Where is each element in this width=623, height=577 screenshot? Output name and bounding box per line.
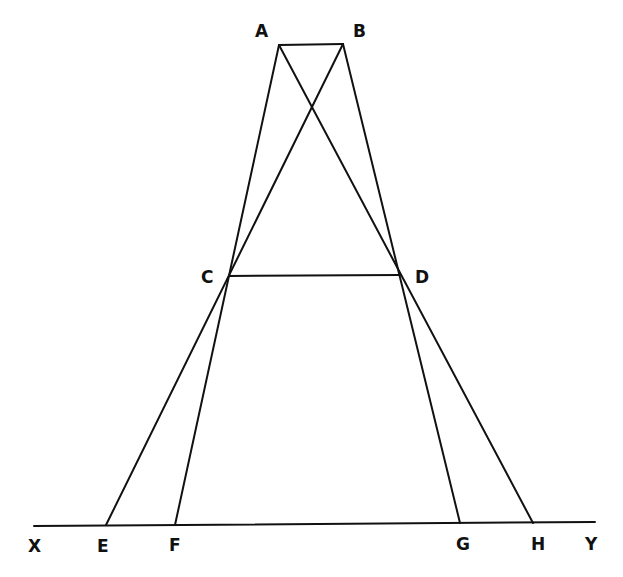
label-d: D (415, 267, 429, 287)
label-f: F (169, 535, 181, 555)
segment-ah (279, 45, 533, 523)
segment-be (106, 44, 343, 525)
segment-ab (279, 44, 343, 45)
label-b: B (353, 21, 366, 41)
label-g: G (456, 534, 470, 554)
label-a: A (255, 21, 269, 41)
segment-af (175, 45, 279, 525)
segment-cd (229, 275, 400, 276)
line-xy (34, 522, 595, 526)
label-c: C (201, 267, 213, 287)
label-e: E (97, 536, 109, 556)
geometry-diagram: A B C D X E F G H Y (0, 0, 623, 577)
label-x: X (28, 536, 41, 556)
label-h: H (531, 534, 545, 554)
label-y: Y (584, 534, 598, 554)
segment-bg (343, 44, 460, 523)
